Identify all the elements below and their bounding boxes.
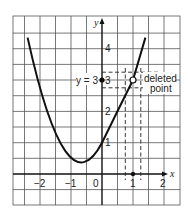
- y-axis-arrow-icon: [100, 18, 105, 24]
- y-tick-label-3: 3: [105, 75, 111, 86]
- grid: [13, 16, 180, 205]
- y-equals-3-dot: [99, 77, 104, 82]
- deleted-label-line2: point: [150, 83, 172, 94]
- y-tick-label-4: 4: [105, 43, 111, 54]
- x-axis-label: x: [169, 168, 175, 179]
- y-tick-label-2: 2: [105, 106, 111, 117]
- x-equals-1-dot: [131, 172, 135, 176]
- x-axis-arrow-icon: [162, 172, 168, 177]
- graph-canvas: y x y = 3 deleted point −2 −1 0 1 2 1 2 …: [0, 0, 188, 218]
- x-tick-label-neg1: −1: [65, 178, 77, 189]
- y-axis-label: y: [93, 17, 99, 28]
- x-tick-label-2: 2: [160, 178, 166, 189]
- x-tick-label-1: 1: [130, 178, 136, 189]
- y-equals-3-label: y = 3: [76, 75, 98, 86]
- y-tick-label-1: 1: [105, 137, 111, 148]
- x-tick-label-0: 0: [93, 178, 99, 189]
- x-tick-label-neg2: −2: [34, 178, 46, 189]
- deleted-point-open-circle: [130, 77, 136, 83]
